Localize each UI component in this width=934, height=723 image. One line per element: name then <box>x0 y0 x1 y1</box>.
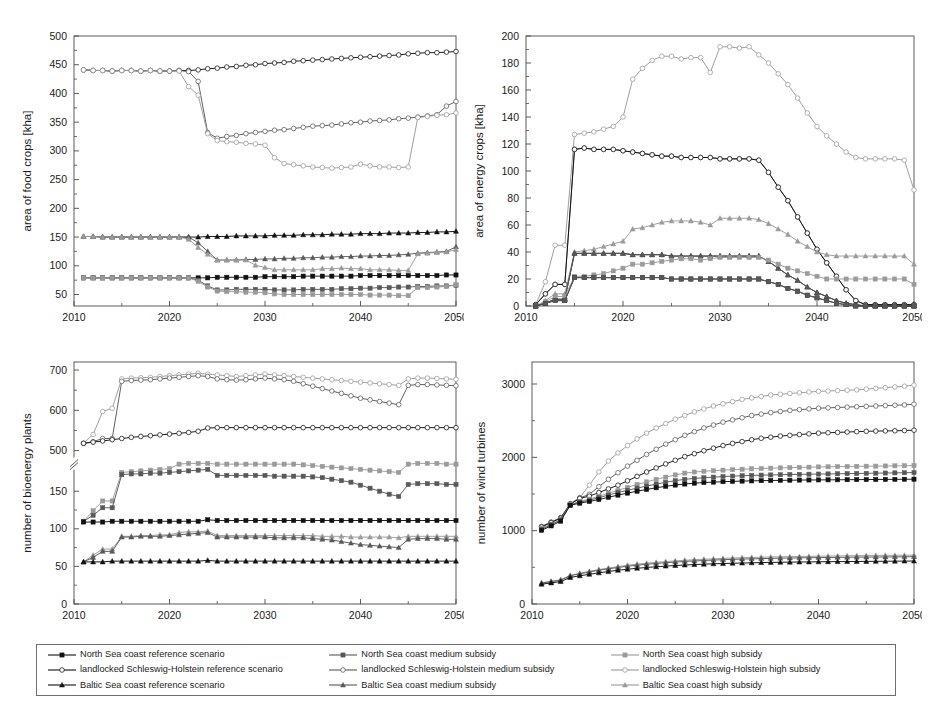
series-marker <box>664 484 668 488</box>
axis-tick-label: 100 <box>501 165 519 177</box>
series-6 <box>81 273 458 280</box>
legend-item[interactable]: Baltic Sea coast medium subsidy <box>328 679 609 691</box>
series-marker <box>553 243 558 248</box>
legend-item[interactable]: North Sea coast medium subsidy <box>328 649 609 661</box>
series-marker <box>225 65 230 70</box>
series-marker <box>669 154 674 159</box>
series-marker <box>768 393 773 398</box>
panel-area-energy-crops: 0204060801001201401601802002010202020302… <box>470 22 922 332</box>
series-marker <box>358 120 363 125</box>
series-marker <box>572 132 577 137</box>
series-marker <box>702 426 707 431</box>
series-marker <box>206 461 210 465</box>
axis-tick-label: 2010 <box>520 609 544 621</box>
series-marker <box>640 262 644 266</box>
series-marker <box>244 131 249 136</box>
axis-tick-label: 50 <box>55 288 67 300</box>
series-marker <box>747 277 751 281</box>
series-marker <box>864 404 869 409</box>
series-marker <box>397 273 401 277</box>
series-marker <box>893 477 897 481</box>
legend-item[interactable]: landlocked Schleswig-Holstein medium sub… <box>328 664 609 676</box>
series-marker <box>435 376 440 381</box>
series-marker <box>702 476 706 480</box>
axis-tick-label: 0 <box>61 598 67 610</box>
series-marker <box>730 474 734 478</box>
legend-marker-filled-triangle-icon <box>47 679 77 691</box>
series-marker <box>816 478 820 482</box>
axis-tick-label: 600 <box>49 404 67 416</box>
series-marker <box>708 70 713 75</box>
series-marker <box>358 396 363 401</box>
series-marker <box>824 261 829 266</box>
series-marker <box>148 68 153 73</box>
series-marker <box>893 403 898 408</box>
series-marker <box>301 463 305 467</box>
series-marker <box>444 425 449 430</box>
series-marker <box>377 399 382 404</box>
series-marker <box>406 165 411 170</box>
series-marker <box>769 473 773 477</box>
axis-tick-label: 500 <box>49 444 67 456</box>
series-marker <box>606 495 610 499</box>
series-marker <box>788 478 792 482</box>
series-marker <box>167 376 172 381</box>
series-marker <box>845 472 849 476</box>
series-marker <box>244 290 248 294</box>
legend-item[interactable]: Baltic Sea coast high subsidy <box>610 679 891 691</box>
series-marker <box>740 397 745 402</box>
series-marker <box>120 473 124 477</box>
series-marker <box>225 473 229 477</box>
series-marker <box>91 520 95 524</box>
series-marker <box>91 440 96 445</box>
series-marker <box>416 51 421 56</box>
series-marker <box>759 394 764 399</box>
series-marker <box>378 489 382 493</box>
series-marker <box>81 276 85 280</box>
series-marker <box>669 258 673 262</box>
series-marker <box>196 240 201 245</box>
series-marker <box>749 413 754 418</box>
legend-item[interactable]: landlocked Schleswig-Holstein reference … <box>47 664 328 676</box>
series-marker <box>769 466 773 470</box>
legend-item[interactable]: Baltic Sea coast reference scenario <box>47 679 328 691</box>
series-marker <box>167 432 172 437</box>
series-marker <box>673 437 678 442</box>
series-marker <box>119 436 124 441</box>
series-marker <box>826 430 831 435</box>
axis-tick-label: 500 <box>49 30 67 42</box>
series-marker <box>310 165 315 170</box>
series-marker <box>444 518 448 522</box>
axis-tick-label: 20 <box>507 273 519 285</box>
series-marker <box>263 425 268 430</box>
series-marker <box>807 478 811 482</box>
series-marker <box>902 403 907 408</box>
series-marker <box>320 386 325 391</box>
series-marker <box>444 104 449 109</box>
legend-marker-filled-square-icon <box>610 649 640 661</box>
series-marker <box>602 276 606 280</box>
series-marker <box>825 299 829 303</box>
series-marker <box>282 275 286 279</box>
series-marker <box>692 451 697 456</box>
series-marker <box>602 272 606 276</box>
legend-item[interactable]: North Sea coast high subsidy <box>610 649 891 661</box>
series-marker <box>785 272 790 277</box>
series-marker <box>582 276 586 280</box>
series-marker <box>673 479 677 483</box>
series-marker <box>893 464 897 468</box>
series-marker <box>339 287 343 291</box>
series-2 <box>81 425 458 445</box>
axis-tick-label: 100 <box>49 522 67 534</box>
axis-tick-label: 2020 <box>616 609 640 621</box>
axis-tick-label: 200 <box>501 30 519 42</box>
series-marker <box>654 466 659 471</box>
series-marker <box>769 478 773 482</box>
series-marker <box>167 276 171 280</box>
y-axis-title: area of energy crops [kha] <box>473 104 485 238</box>
legend-item[interactable]: landlocked Schleswig-Holstein high subsi… <box>610 664 891 676</box>
series-marker <box>253 425 258 430</box>
series-marker <box>406 116 411 121</box>
series-marker <box>244 377 249 382</box>
legend-item[interactable]: North Sea coast reference scenario <box>47 649 328 661</box>
